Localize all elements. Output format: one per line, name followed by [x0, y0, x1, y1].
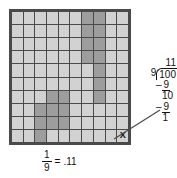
grid-cell [70, 38, 81, 50]
grid-cell [47, 91, 58, 103]
grid-cell [59, 12, 70, 24]
grid-cell [82, 38, 93, 50]
grid-cell [70, 12, 81, 24]
grid-cell [94, 64, 105, 76]
division-remainder: 1 [136, 113, 177, 124]
grid-cell [35, 38, 46, 50]
grid-cell [94, 130, 105, 142]
grid-cell [24, 64, 35, 76]
grid-cell [70, 64, 81, 76]
grid-cell [106, 51, 117, 63]
grid-cell [35, 104, 46, 116]
grid-cell [12, 130, 23, 142]
division-step-3: – 9 [136, 102, 177, 113]
grid-cell [70, 25, 81, 37]
grid-cell [59, 51, 70, 63]
grid-cell [117, 51, 128, 63]
grid-cell [70, 51, 81, 63]
grid-cell [82, 25, 93, 37]
fraction-one-ninth: 1 9 [42, 150, 52, 173]
grid-cell [35, 51, 46, 63]
grid-cell [59, 104, 70, 116]
grid-cell [117, 78, 128, 90]
grid-cell [47, 64, 58, 76]
grid-cell [70, 104, 81, 116]
grid-cell [12, 12, 23, 24]
grid-cell [106, 12, 117, 24]
decimal-value: .11 [63, 156, 76, 167]
division-bring-down: 10 [136, 91, 177, 102]
grid-cell [117, 12, 128, 24]
fraction-equation: 1 9 = .11 [42, 150, 77, 173]
grid-cell [24, 91, 35, 103]
grid-cell [94, 91, 105, 103]
grid-cell [117, 25, 128, 37]
grid-cell [47, 38, 58, 50]
grid-cell [59, 78, 70, 90]
grid-cell [24, 130, 35, 142]
fraction-denominator: 9 [42, 162, 52, 173]
grid-cell [47, 78, 58, 90]
grid-cell [47, 12, 58, 24]
grid-cell [94, 38, 105, 50]
grid-cell [117, 64, 128, 76]
grid-cell [82, 91, 93, 103]
grid-cell [117, 91, 128, 103]
grid-cell [94, 51, 105, 63]
grid-cell [70, 117, 81, 129]
hundredths-grid: X [9, 9, 131, 145]
grid-cell [12, 25, 23, 37]
grid-cell [82, 78, 93, 90]
grid-cell [106, 130, 117, 142]
grid-cell [24, 12, 35, 24]
grid-cell [70, 91, 81, 103]
grid-cell [94, 78, 105, 90]
grid-cell [59, 91, 70, 103]
grid-cell [35, 12, 46, 24]
grid-cell [82, 104, 93, 116]
grid-cell [35, 78, 46, 90]
grid-cell [12, 104, 23, 116]
grid-cell [117, 38, 128, 50]
grid-cell [82, 64, 93, 76]
grid-cell [106, 91, 117, 103]
grid-cell [94, 104, 105, 116]
equals-sign: = [55, 156, 61, 167]
grid-cell [12, 51, 23, 63]
grid-cell [12, 78, 23, 90]
division-quotient-row: 11 [136, 57, 177, 68]
grid-cell [106, 25, 117, 37]
grid-cell [12, 38, 23, 50]
grid-cell [94, 117, 105, 129]
grid-cell [106, 64, 117, 76]
grid-cell [94, 25, 105, 37]
grid-cell [106, 117, 117, 129]
grid-cell [47, 51, 58, 63]
grid-cell: X [117, 130, 128, 142]
grid-cell [82, 117, 93, 129]
grid-cell-x-mark: X [117, 130, 128, 142]
grid-cell [47, 104, 58, 116]
fraction-numerator: 1 [42, 150, 52, 161]
grid-cell [24, 25, 35, 37]
grid-cell [24, 117, 35, 129]
grid-cell [59, 25, 70, 37]
grid-cell [70, 130, 81, 142]
grid-cell [106, 104, 117, 116]
grid-cell [47, 130, 58, 142]
grid-cell [82, 130, 93, 142]
division-bracket-row: 9 100 [136, 68, 177, 80]
long-division-work: 11 9 100 – 9 10 – 9 1 [136, 57, 177, 124]
grid-cell [24, 38, 35, 50]
division-step-3-minus: – [156, 102, 162, 112]
grid-cell [12, 117, 23, 129]
division-quotient: 11 [166, 58, 177, 68]
grid-cell [35, 130, 46, 142]
grid-cell [24, 104, 35, 116]
grid-cell [106, 78, 117, 90]
grid-cell [59, 117, 70, 129]
grid-cell [12, 64, 23, 76]
grid-cell [82, 51, 93, 63]
division-step-1-minus: – [156, 80, 162, 90]
hundredths-grid-container: X [9, 9, 131, 145]
